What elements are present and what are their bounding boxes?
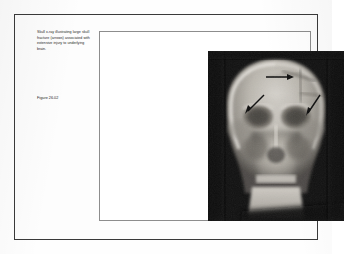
document-outer-border: Skull x-ray illustrating large skull fra… [14, 14, 318, 240]
figure-caption-text: Skull x-ray illustrating large skull fra… [37, 30, 93, 52]
skull-xray-radiograph [208, 51, 344, 221]
figure-plate-frame [99, 31, 311, 221]
figure-number-label: Figure 26.02 [37, 96, 97, 101]
caption-block: Skull x-ray illustrating large skull fra… [37, 30, 93, 52]
